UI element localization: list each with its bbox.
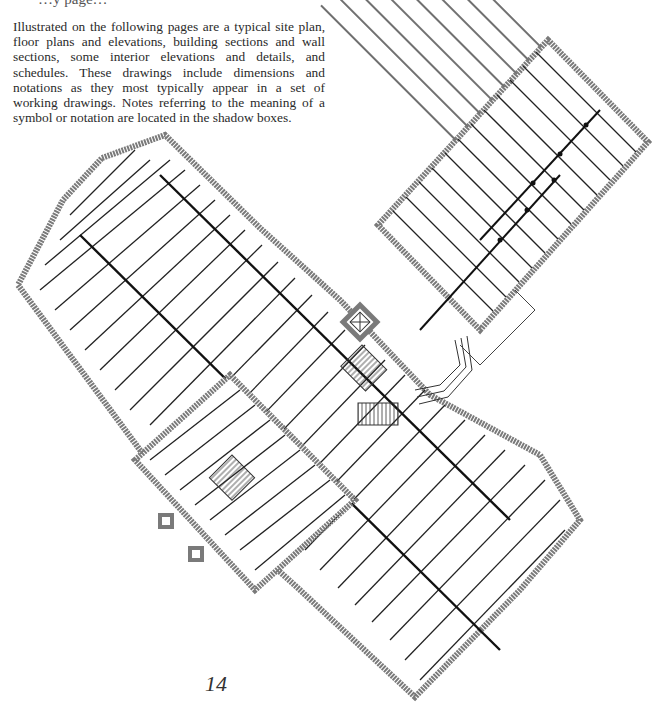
page-number: 14 <box>205 671 227 697</box>
floor-plan-drawing <box>0 0 665 709</box>
stairs-center <box>358 403 398 425</box>
